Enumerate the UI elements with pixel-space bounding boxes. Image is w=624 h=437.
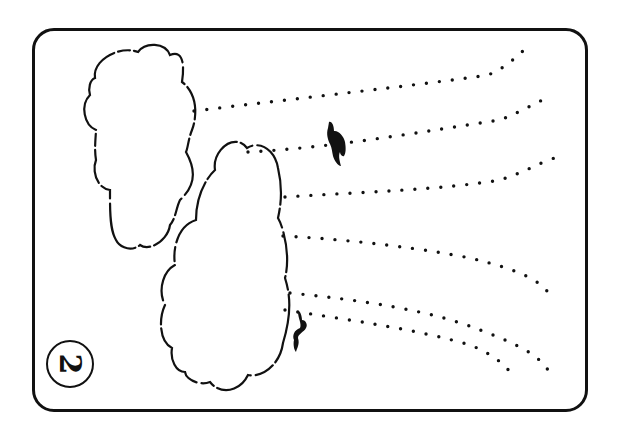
falling-person-icon	[293, 312, 307, 352]
wind-line-4	[283, 236, 550, 295]
lower-right-cloud	[161, 142, 289, 390]
wind-line-3	[285, 158, 555, 197]
card-number: 2	[55, 354, 85, 375]
wind-line-1	[194, 50, 524, 111]
wind-line-6	[285, 310, 515, 378]
card-number-badge: 2	[46, 340, 94, 388]
wind-line-5	[290, 293, 548, 370]
falling-person-icon	[327, 122, 345, 166]
wind-line-2	[248, 98, 548, 152]
scene	[0, 0, 624, 437]
upper-left-cloud	[84, 45, 195, 249]
